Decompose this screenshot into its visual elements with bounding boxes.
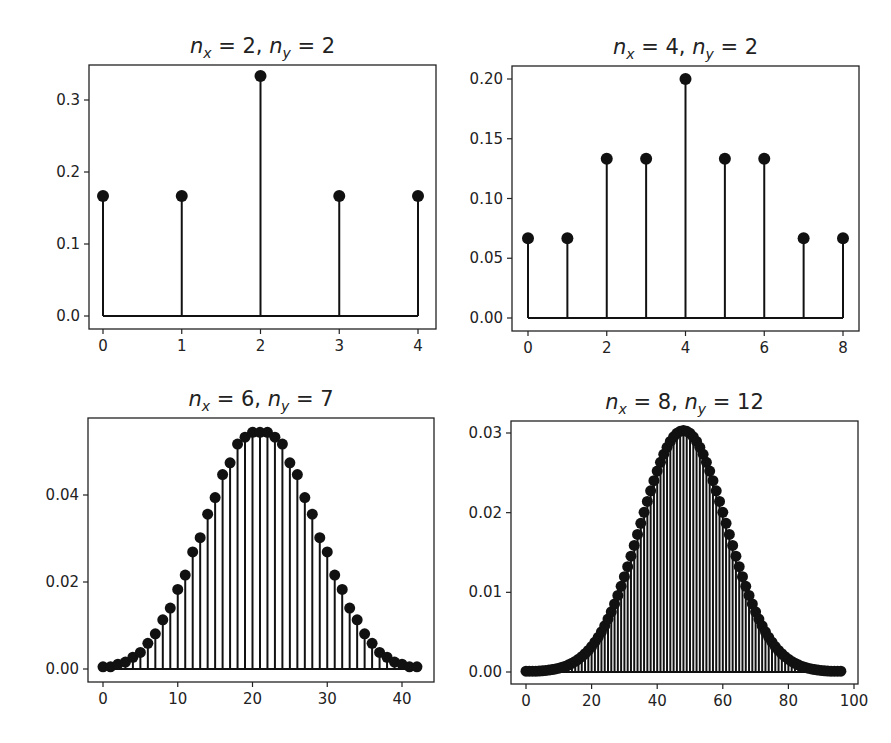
axes-frame [511, 421, 858, 684]
stem-marker [359, 628, 370, 639]
subplot-title: nx = 6, ny = 7 [188, 387, 333, 414]
subplot-3: nx = 6, ny = 70102030400.000.020.04 [46, 387, 434, 708]
figure: nx = 2, ny = 2012340.00.10.20.3 nx = 4, … [0, 0, 891, 743]
stem-marker [640, 153, 652, 165]
x-tick-label: 4 [413, 337, 423, 355]
stem-marker [176, 190, 188, 202]
stem-marker [724, 529, 735, 540]
stem-marker [622, 561, 633, 572]
stem-marker [225, 457, 236, 468]
x-tick-label: 20 [582, 692, 601, 710]
stem-marker [150, 628, 161, 639]
stem-marker [180, 570, 191, 581]
subplot-title: nx = 8, ny = 12 [605, 390, 764, 417]
stem-marker [734, 561, 745, 572]
x-tick-label: 3 [334, 337, 344, 355]
stem-marker [721, 518, 732, 529]
stem-marker [314, 532, 325, 543]
y-tick-label: 0.03 [469, 424, 502, 442]
stem-marker [619, 571, 630, 582]
stem-marker [707, 475, 718, 486]
stem-marker [322, 546, 333, 557]
stem-marker [625, 551, 636, 562]
x-tick-label: 2 [602, 339, 612, 357]
x-tick-label: 8 [838, 339, 848, 357]
stem-marker [337, 584, 348, 595]
stem-marker [704, 466, 715, 477]
x-tick-label: 0 [523, 339, 533, 357]
stem-marker [680, 73, 692, 85]
stem-marker [642, 496, 653, 507]
stem-marker [639, 507, 650, 518]
stem-marker [344, 603, 355, 614]
stem-marker [714, 496, 725, 507]
x-tick-label: 6 [759, 339, 769, 357]
stem-marker [352, 614, 363, 625]
y-tick-label: 0.20 [470, 70, 503, 88]
x-tick-label: 1 [177, 337, 187, 355]
x-tick-label: 10 [168, 690, 187, 708]
y-tick-label: 0.1 [56, 235, 80, 253]
stem-marker [165, 603, 176, 614]
y-tick-label: 0.04 [46, 486, 79, 504]
y-tick-label: 0.2 [56, 163, 80, 181]
y-tick-label: 0.0 [56, 307, 80, 325]
stem-marker [307, 509, 318, 520]
stem-marker [837, 232, 849, 244]
stem-marker [711, 485, 722, 496]
x-tick-label: 0 [98, 337, 108, 355]
subplot-title: nx = 2, ny = 2 [190, 34, 335, 61]
stem-marker [730, 551, 741, 562]
stem-marker [277, 439, 288, 450]
y-tick-label: 0.05 [470, 249, 503, 267]
stem-marker [632, 529, 643, 540]
stem-marker [411, 661, 422, 672]
x-tick-label: 30 [318, 690, 337, 708]
axes-frame [88, 418, 434, 682]
x-tick-label: 40 [648, 692, 667, 710]
stem-marker [719, 153, 731, 165]
stem-marker [299, 492, 310, 503]
y-tick-label: 0.00 [469, 663, 502, 681]
stem-marker [522, 232, 534, 244]
y-tick-label: 0.3 [56, 91, 80, 109]
stem-marker [333, 190, 345, 202]
stem-marker [210, 492, 221, 503]
stem-marker [561, 232, 573, 244]
y-tick-label: 0.02 [46, 573, 79, 591]
stem-marker [284, 457, 295, 468]
stem-marker [629, 540, 640, 551]
x-tick-label: 80 [779, 692, 798, 710]
stem-marker [601, 153, 613, 165]
axes-frame [89, 65, 436, 329]
stem-marker [835, 666, 846, 677]
stem-marker [616, 581, 627, 592]
stem-marker [255, 70, 267, 82]
subplot-title: nx = 4, ny = 2 [613, 35, 758, 62]
x-tick-label: 0 [98, 690, 108, 708]
stem-marker [758, 153, 770, 165]
stem-marker [187, 546, 198, 557]
stem-marker [648, 475, 659, 486]
x-tick-label: 2 [256, 337, 266, 355]
stem-marker [135, 647, 146, 658]
stem-marker [645, 485, 656, 496]
stem-marker [412, 190, 424, 202]
subplot-1: nx = 2, ny = 2012340.00.10.20.3 [56, 34, 436, 355]
stem-marker [329, 570, 340, 581]
y-tick-label: 0.10 [470, 190, 503, 208]
stem-marker [97, 190, 109, 202]
stem-marker [202, 509, 213, 520]
x-tick-label: 100 [840, 692, 869, 710]
stem-marker [142, 638, 153, 649]
stem-marker [798, 232, 810, 244]
x-tick-label: 40 [392, 690, 411, 708]
stem-marker [727, 540, 738, 551]
stem-marker [367, 638, 378, 649]
stem-marker [217, 469, 228, 480]
stem-marker [195, 532, 206, 543]
stem-marker [635, 518, 646, 529]
y-tick-label: 0.00 [46, 660, 79, 678]
stem-marker [717, 507, 728, 518]
y-tick-label: 0.02 [469, 504, 502, 522]
